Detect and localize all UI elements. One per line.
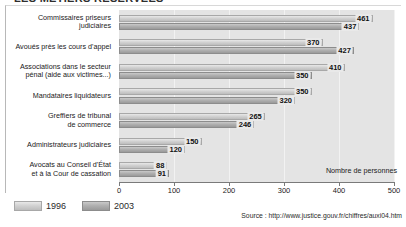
bar-y2003 [119, 121, 254, 128]
x-axis-tick-label: 500 [388, 186, 401, 195]
gridline [339, 10, 340, 182]
bar-value-label: 91 [156, 169, 168, 178]
x-axis-tick-label: 0 [117, 186, 121, 195]
bar-y2003 [119, 47, 354, 54]
bar-y2003 [119, 72, 312, 79]
legend-item-1996: 1996 [14, 201, 66, 211]
bar-value-label: 120 [167, 145, 184, 154]
category-label: Administrateurs judiciaires [7, 141, 111, 150]
bar-y1996 [119, 88, 312, 95]
bar-value-label: 410 [327, 63, 344, 72]
x-axis-title: Nombre de personnes [326, 166, 397, 175]
bar-value-label: 370 [305, 38, 322, 47]
bar-value-label: 246 [237, 120, 254, 129]
legend-label-2003: 2003 [114, 201, 134, 211]
bar-y2003 [119, 97, 295, 104]
bar-value-label: 350 [294, 87, 311, 96]
bar-value-label: 350 [294, 71, 311, 80]
category-label: Avoués près les cours d'appel [7, 43, 111, 52]
bar-y1996 [119, 113, 265, 120]
chart-frame: Nombre de personnes 0100200300400500Comm… [5, 5, 401, 193]
bar-y1996 [119, 39, 323, 46]
bar-value-label: 150 [184, 137, 201, 146]
category-label: Avocats au Conseil d'État et à la Cour d… [7, 161, 111, 178]
x-axis-tick-label: 200 [223, 186, 236, 195]
source-note: Source : http://www.justice.gouv.fr/chif… [241, 212, 402, 219]
gridline [394, 10, 395, 182]
bar-value-label: 320 [277, 96, 294, 105]
chart-legend: 1996 2003 [14, 201, 144, 211]
x-axis-line [119, 182, 395, 183]
legend-swatch-2003 [82, 201, 110, 211]
legend-swatch-1996 [14, 201, 42, 211]
bar-y1996 [119, 64, 345, 71]
bar-y2003 [119, 23, 359, 30]
category-label: Greffiers de tribunal de commerce [7, 112, 111, 129]
category-label: Associations dans le secteur pénal (aide… [7, 63, 111, 80]
legend-item-2003: 2003 [82, 201, 134, 211]
category-label: Mandataires liquidateurs [7, 92, 111, 101]
bar-y1996 [119, 15, 373, 22]
legend-label-1996: 1996 [46, 201, 66, 211]
bar-value-label: 437 [342, 22, 359, 31]
x-axis-tick-label: 400 [333, 186, 346, 195]
category-label: Commissaires priseurs judiciaires [7, 14, 111, 31]
x-axis-tick-label: 100 [168, 186, 181, 195]
x-axis-tick-label: 300 [278, 186, 291, 195]
chart-title: LES MÉTIERS RÉSERVÉES [14, 0, 164, 4]
chart-figure: LES MÉTIERS RÉSERVÉES Nombre de personne… [0, 0, 406, 227]
bar-value-label: 427 [336, 46, 353, 55]
